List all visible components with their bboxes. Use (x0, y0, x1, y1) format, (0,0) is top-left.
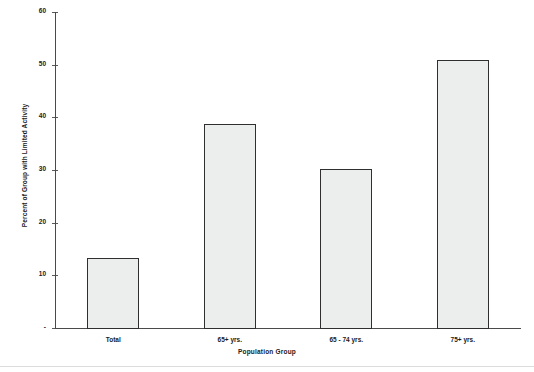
y-axis-title-label: Percent of Group with Limited Activity (22, 103, 29, 227)
y-axis-tick-label: - (0, 324, 46, 331)
bar (320, 169, 372, 329)
bar (204, 124, 256, 329)
y-axis-tick-label: 30 (0, 166, 46, 173)
y-axis-tick-label: 50 (0, 61, 46, 68)
scan-artifact-line (0, 366, 534, 367)
x-axis-title: Population Group (0, 348, 534, 355)
x-axis-category-label: Total (106, 336, 121, 343)
bar (87, 258, 139, 329)
y-axis-tick-label: 60 (0, 8, 46, 15)
y-axis-tick-label: 20 (0, 219, 46, 226)
x-axis-category-label: 75+ yrs. (451, 336, 475, 343)
bars-container (55, 12, 521, 329)
y-axis-tick-label: 40 (0, 113, 46, 120)
x-axis-category-label: 65 - 74 yrs. (329, 336, 363, 343)
bar-chart: Percent of Group with Limited Activity -… (0, 0, 534, 372)
bar (437, 60, 489, 329)
x-axis-category-label: 65+ yrs. (218, 336, 242, 343)
y-axis-tick-label: 10 (0, 271, 46, 278)
y-axis-title: Percent of Group with Limited Activity (18, 0, 32, 330)
